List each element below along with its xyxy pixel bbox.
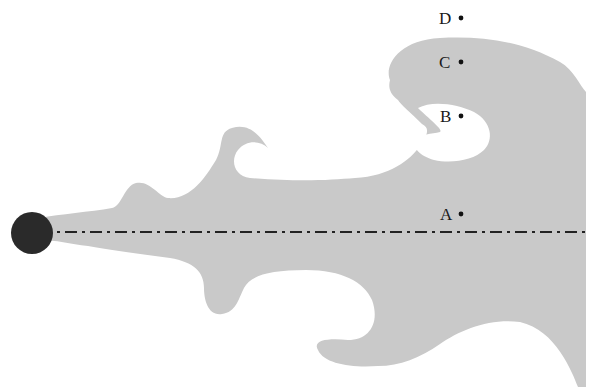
point-label-d: D xyxy=(439,9,451,28)
point-d: D xyxy=(439,9,463,28)
point-dot-c xyxy=(459,60,464,65)
flame-shape-diagram: D C B A xyxy=(0,0,600,387)
point-dot-b xyxy=(459,114,464,119)
diagram-canvas: D C B A xyxy=(0,0,600,387)
point-label-c: C xyxy=(439,53,450,72)
point-label-b: B xyxy=(440,107,451,126)
dark-ball xyxy=(11,212,53,254)
point-label-a: A xyxy=(440,205,453,224)
point-dot-d xyxy=(459,16,464,21)
gray-shape xyxy=(40,38,586,387)
point-dot-a xyxy=(459,212,464,217)
